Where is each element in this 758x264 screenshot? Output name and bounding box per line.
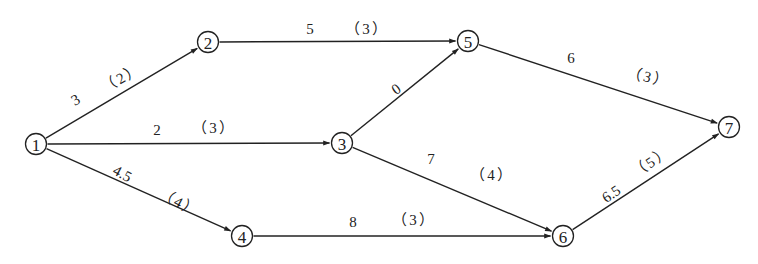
node-label: 2 (204, 34, 213, 53)
node-1: 1 (26, 134, 47, 155)
bracket-label-2-5: （3） (345, 21, 389, 37)
duration-label-2-5: 5 (306, 21, 314, 37)
arrow-5-to-7 (479, 45, 717, 123)
node-4: 4 (232, 226, 253, 247)
arrow-1-to-4 (47, 149, 231, 231)
duration-label-5-7: 6 (567, 50, 575, 66)
node-label: 4 (238, 228, 247, 247)
node-3: 3 (332, 133, 353, 154)
arrow-3-to-5 (351, 49, 458, 136)
bracket-label-1-4: （4） (156, 185, 202, 220)
node-6: 6 (553, 226, 574, 247)
bracket-label-1-2: （2） (99, 60, 145, 96)
node-7: 7 (719, 117, 740, 138)
bracket-label-6-7: （5） (629, 143, 674, 181)
node-label: 6 (559, 228, 568, 247)
bracket-label-4-6: （3） (392, 212, 436, 228)
edge-labels-layer: 3（2）2（3）4.5（4）5（3）07（4）8（3）6（3）6.5（5） (68, 21, 673, 230)
duration-label-1-2: 3 (68, 91, 82, 109)
node-label: 5 (464, 33, 473, 52)
duration-label-4-6: 8 (349, 214, 357, 230)
node-label: 7 (725, 119, 734, 138)
arrow-3-to-6 (353, 147, 552, 231)
duration-label-1-3: 2 (153, 122, 161, 138)
network-diagram: 3（2）2（3）4.5（4）5（3）07（4）8（3）6（3）6.5（5） 12… (0, 0, 758, 264)
node-2: 2 (198, 32, 219, 53)
edges-layer (46, 41, 719, 236)
arrow-1-to-2 (46, 48, 197, 138)
arrow-6-to-7 (573, 134, 719, 230)
arrow-2-to-5 (219, 41, 455, 42)
duration-label-1-4: 4.5 (110, 162, 134, 185)
node-5: 5 (458, 31, 479, 52)
bracket-label-3-6: （4） (470, 167, 514, 183)
bracket-label-1-3: （3） (192, 120, 236, 136)
node-label: 3 (338, 135, 347, 154)
bracket-label-5-7: （3） (625, 64, 671, 90)
node-label: 1 (32, 136, 41, 155)
arrow-1-to-3 (47, 143, 329, 144)
duration-label-6-7: 6.5 (599, 182, 623, 206)
duration-label-3-6: 7 (427, 151, 435, 167)
